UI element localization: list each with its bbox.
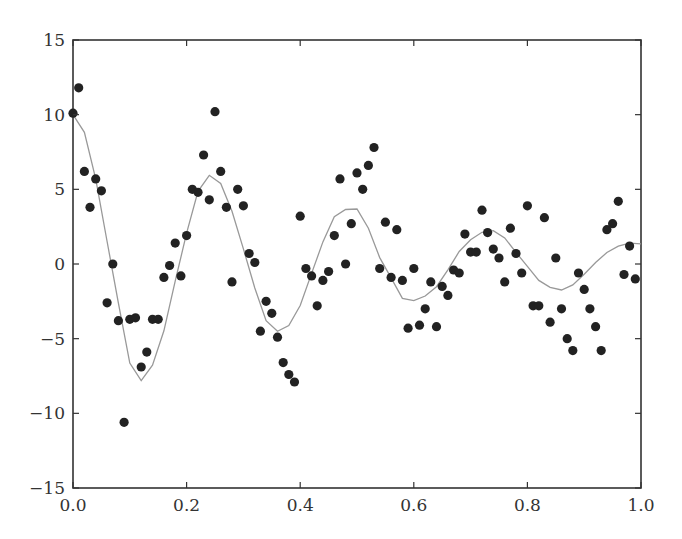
data-point bbox=[137, 362, 146, 371]
data-point bbox=[80, 167, 89, 176]
data-point bbox=[426, 277, 435, 286]
data-point bbox=[103, 298, 112, 307]
data-point bbox=[540, 213, 549, 222]
data-point bbox=[296, 212, 305, 221]
data-point bbox=[443, 291, 452, 300]
data-point bbox=[568, 346, 577, 355]
data-point bbox=[489, 245, 498, 254]
data-point bbox=[415, 321, 424, 330]
data-point bbox=[68, 109, 77, 118]
data-point bbox=[472, 248, 481, 257]
data-point bbox=[585, 304, 594, 313]
fit-curve bbox=[73, 115, 641, 381]
data-point bbox=[142, 348, 151, 357]
data-point bbox=[262, 297, 271, 306]
data-point bbox=[267, 309, 276, 318]
data-point bbox=[324, 267, 333, 276]
data-points bbox=[68, 83, 640, 427]
data-point bbox=[74, 83, 83, 92]
x-tick-label: 0.6 bbox=[400, 495, 427, 515]
data-point bbox=[199, 150, 208, 159]
data-point bbox=[318, 276, 327, 285]
data-point bbox=[409, 264, 418, 273]
data-point bbox=[438, 282, 447, 291]
data-point bbox=[455, 268, 464, 277]
y-tick-label: −15 bbox=[29, 478, 65, 498]
data-point bbox=[131, 313, 140, 322]
data-point bbox=[358, 185, 367, 194]
data-point bbox=[335, 174, 344, 183]
data-point bbox=[313, 301, 322, 310]
data-point bbox=[398, 276, 407, 285]
data-point bbox=[517, 268, 526, 277]
data-point bbox=[250, 258, 259, 267]
data-point bbox=[625, 242, 634, 251]
data-point bbox=[165, 261, 174, 270]
data-point bbox=[171, 239, 180, 248]
x-tick-label: 1.0 bbox=[627, 495, 654, 515]
x-tick-label: 0.2 bbox=[173, 495, 200, 515]
y-tick-label: −5 bbox=[40, 329, 65, 349]
data-point bbox=[256, 327, 265, 336]
data-point bbox=[574, 268, 583, 277]
data-point bbox=[546, 318, 555, 327]
data-point bbox=[245, 249, 254, 258]
x-tick-label: 0.8 bbox=[514, 495, 541, 515]
y-tick-label: 15 bbox=[43, 30, 65, 50]
data-point bbox=[341, 259, 350, 268]
data-point bbox=[477, 206, 486, 215]
data-point bbox=[182, 231, 191, 240]
data-point bbox=[619, 270, 628, 279]
data-point bbox=[352, 168, 361, 177]
data-point bbox=[239, 201, 248, 210]
data-point bbox=[631, 274, 640, 283]
data-point bbox=[614, 197, 623, 206]
data-point bbox=[233, 185, 242, 194]
data-point bbox=[193, 188, 202, 197]
y-tick-label: 10 bbox=[43, 105, 65, 125]
data-point bbox=[421, 304, 430, 313]
y-tick-label: −10 bbox=[29, 403, 65, 423]
data-point bbox=[301, 264, 310, 273]
data-point bbox=[279, 358, 288, 367]
data-point bbox=[523, 201, 532, 210]
x-tick-label: 0.4 bbox=[287, 495, 314, 515]
data-point bbox=[404, 324, 413, 333]
data-point bbox=[120, 418, 129, 427]
data-point bbox=[347, 219, 356, 228]
data-point bbox=[494, 253, 503, 262]
y-tick-label: 5 bbox=[54, 179, 65, 199]
data-point bbox=[114, 316, 123, 325]
data-point bbox=[511, 249, 520, 258]
data-point bbox=[534, 301, 543, 310]
data-point bbox=[227, 277, 236, 286]
data-point bbox=[307, 271, 316, 280]
data-point bbox=[432, 322, 441, 331]
data-point bbox=[222, 203, 231, 212]
data-point bbox=[369, 143, 378, 152]
fit-line-path bbox=[73, 115, 641, 381]
data-point bbox=[91, 174, 100, 183]
data-point bbox=[563, 334, 572, 343]
data-point bbox=[381, 218, 390, 227]
data-point bbox=[557, 304, 566, 313]
data-point bbox=[483, 228, 492, 237]
y-tick-label: 0 bbox=[54, 254, 65, 274]
x-tick-label: 0.0 bbox=[59, 495, 86, 515]
data-point bbox=[97, 186, 106, 195]
data-point bbox=[506, 224, 515, 233]
data-point bbox=[85, 203, 94, 212]
data-point bbox=[290, 377, 299, 386]
data-point bbox=[284, 370, 293, 379]
data-point bbox=[159, 273, 168, 282]
data-point bbox=[608, 219, 617, 228]
data-point bbox=[216, 167, 225, 176]
data-point bbox=[591, 322, 600, 331]
scatter-chart: 0.00.20.40.60.81.0 −15−10−5051015 bbox=[0, 0, 682, 539]
data-point bbox=[210, 107, 219, 116]
data-point bbox=[273, 333, 282, 342]
data-point bbox=[375, 264, 384, 273]
data-point bbox=[580, 285, 589, 294]
data-point bbox=[392, 225, 401, 234]
data-point bbox=[364, 161, 373, 170]
